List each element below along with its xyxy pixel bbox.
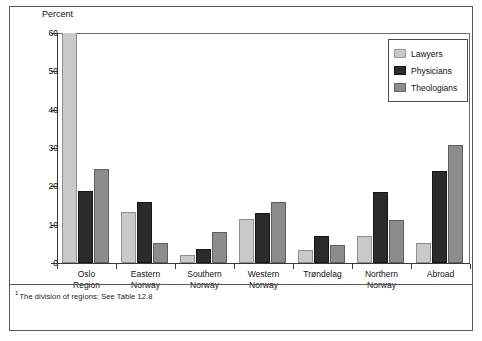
bar-theologians-0 [94, 169, 110, 263]
bar-physicians-1 [137, 202, 153, 263]
legend-item-theologians: Theologians [394, 79, 463, 96]
legend-item-physicians: Physicians [394, 62, 463, 79]
bar-lawyers-4 [298, 250, 314, 263]
legend-swatch-lawyers-icon [394, 49, 406, 58]
bar-physicians-6 [432, 171, 448, 263]
legend-item-lawyers: Lawyers [394, 45, 463, 62]
chart-legend: LawyersPhysiciansTheologians [388, 39, 468, 102]
legend-label: Theologians [411, 83, 457, 93]
x-axis-label-6: Abroad [406, 269, 476, 280]
bar-physicians-3 [255, 213, 271, 263]
bar-theologians-1 [153, 243, 169, 263]
bar-lawyers-5 [357, 236, 373, 263]
bar-physicians-4 [314, 236, 330, 263]
bar-theologians-3 [271, 202, 287, 263]
footnote-divider [10, 284, 472, 285]
bar-theologians-6 [448, 145, 464, 263]
bar-theologians-2 [212, 232, 228, 263]
bar-lawyers-3 [239, 219, 255, 263]
footnote: 1The division of regions: See Table 12.8 [15, 290, 152, 301]
footnote-marker: 1 [15, 290, 18, 296]
x-axis-label-line: Abroad [406, 269, 476, 280]
bar-physicians-2 [196, 249, 212, 263]
bar-theologians-4 [330, 245, 346, 263]
footnote-text: The division of regions: See Table 12.8 [19, 292, 152, 301]
legend-label: Physicians [411, 66, 452, 76]
figure-page: Percent 0102030405060 OsloRegionEasternN… [0, 0, 482, 341]
bar-lawyers-1 [121, 212, 137, 263]
legend-swatch-physicians-icon [394, 66, 406, 75]
bar-physicians-5 [373, 192, 389, 263]
legend-label: Lawyers [411, 49, 443, 59]
bar-lawyers-2 [180, 255, 196, 263]
bar-physicians-0 [78, 191, 94, 263]
bar-lawyers-6 [416, 243, 432, 263]
bar-theologians-5 [389, 220, 405, 263]
legend-swatch-theologians-icon [394, 83, 406, 92]
bar-lawyers-0 [62, 33, 78, 263]
